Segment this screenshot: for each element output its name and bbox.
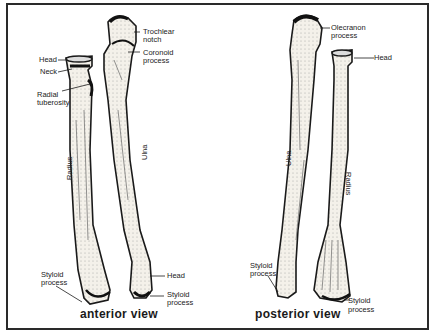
anterior-radius (66, 56, 110, 304)
label-anterior-ulna-head: Head (167, 272, 185, 280)
label-posterior-radius-head: Head (374, 54, 392, 62)
caption-posterior-view: posterior view (255, 307, 341, 321)
label-anterior-radius-neck: Neck (40, 68, 57, 76)
label-posterior-ulna-styloid-line2: process (250, 270, 276, 278)
label-coronoid-process-line2: process (143, 57, 169, 65)
label-anterior-radius-head: Head (39, 56, 57, 64)
caption-anterior-view: anterior view (80, 307, 158, 321)
label-posterior-radius-styloid-line2: process (348, 306, 374, 314)
label-posterior-ulna-bone: Ulna (284, 151, 293, 166)
label-posterior-radius-bone: Radius (344, 172, 353, 195)
label-posterior-radius-styloid-line1: Styloid (348, 297, 371, 305)
label-trochlear-notch-line2: notch (143, 36, 161, 44)
label-anterior-ulna-styloid-line2: process (167, 299, 193, 307)
label-anterior-ulna-bone: Ulna (140, 145, 149, 160)
label-anterior-radius-styloid-line2: process (41, 279, 67, 287)
label-anterior-radius-bone: Radius (65, 157, 74, 180)
label-radial-tuberosity-line2: tuberosity (37, 99, 70, 107)
label-olecranon-process-line2: process (331, 32, 357, 40)
posterior-ulna (276, 15, 322, 298)
